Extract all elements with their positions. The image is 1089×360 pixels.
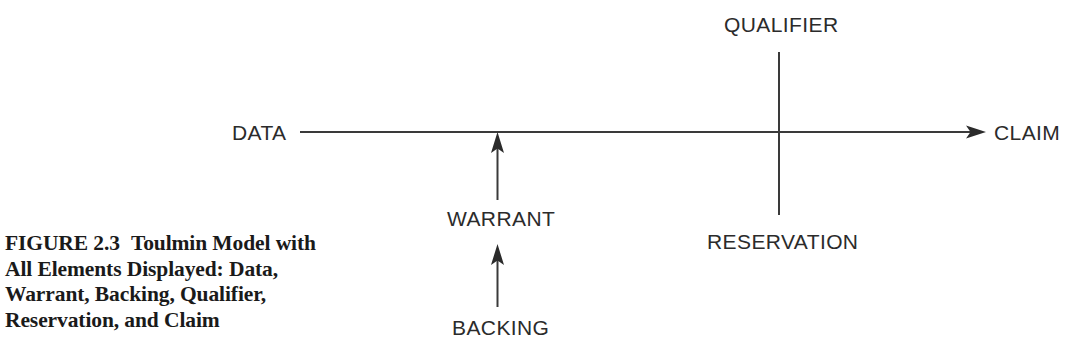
figure-caption: FIGURE 2.3Toulmin Model with All Element… bbox=[5, 231, 345, 333]
caption-line-1: FIGURE 2.3Toulmin Model with bbox=[5, 231, 345, 257]
node-label-warrant: WARRANT bbox=[447, 208, 555, 229]
node-label-reservation: RESERVATION bbox=[707, 231, 858, 252]
node-label-data: DATA bbox=[232, 122, 287, 143]
node-label-claim: CLAIM bbox=[994, 122, 1060, 143]
caption-figure-number: FIGURE 2.3 bbox=[5, 231, 120, 255]
caption-line-1-text: Toulmin Model with bbox=[131, 231, 316, 255]
figure-container: DATA CLAIM WARRANT BACKING QUALIFIER RES… bbox=[0, 0, 1089, 360]
caption-line-3: Warrant, Backing, Qualifier, bbox=[5, 282, 345, 308]
caption-line-4: Reservation, and Claim bbox=[5, 308, 345, 334]
node-label-qualifier: QUALIFIER bbox=[724, 14, 838, 35]
node-label-backing: BACKING bbox=[452, 317, 549, 338]
caption-line-2: All Elements Displayed: Data, bbox=[5, 257, 345, 283]
